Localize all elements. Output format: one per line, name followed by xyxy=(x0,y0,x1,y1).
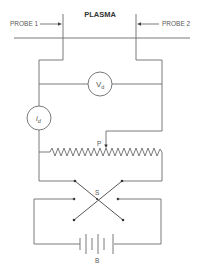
switch-pin-top-right xyxy=(121,180,124,183)
probe-1-arrow-icon xyxy=(58,22,62,26)
switch-pivot xyxy=(96,198,98,200)
probe-1-label: PROBE 1 xyxy=(10,20,39,27)
potentiometer-label: P xyxy=(97,140,101,147)
probe-1-wire xyxy=(39,38,63,106)
battery-right-wire xyxy=(114,199,161,244)
battery-left-wire xyxy=(34,199,80,244)
probe-2-wire xyxy=(136,38,162,131)
battery-label: B xyxy=(95,257,99,264)
probe-1: PROBE 1 xyxy=(10,14,63,106)
probe-2-label: PROBE 2 xyxy=(162,20,191,27)
plasma-label: PLASMA xyxy=(84,10,116,19)
switch-blade-1 xyxy=(75,181,123,220)
switch-pin-bottom-right xyxy=(122,219,125,222)
ammeter-id: id xyxy=(27,106,51,181)
battery-loop: B xyxy=(34,199,161,264)
switch-blade-2 xyxy=(74,181,122,220)
switch-label: S xyxy=(95,189,100,196)
voltmeter-label: Vd xyxy=(96,80,104,90)
potentiometer-tap-wire xyxy=(106,131,162,145)
double-probe-circuit-diagram: PLASMA PROBE 1 PROBE 2 Vd id P xyxy=(0,0,206,274)
probe-2: PROBE 2 xyxy=(136,14,191,131)
switch-pin-top-left xyxy=(74,180,77,183)
reversing-switch: S xyxy=(39,180,162,222)
switch-pin-bottom-left xyxy=(73,219,76,222)
probe-2-arrow-icon xyxy=(137,22,141,26)
resistor-zigzag-icon xyxy=(50,148,162,156)
potentiometer: P xyxy=(39,131,162,181)
voltmeter-vd: Vd xyxy=(39,72,162,96)
battery-icon xyxy=(80,234,113,254)
ammeter-label: id xyxy=(36,114,42,124)
